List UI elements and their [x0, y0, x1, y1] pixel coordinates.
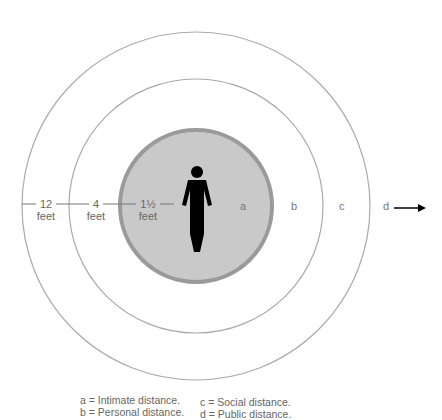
- legend-right: c = Social distance. d = Public distance…: [200, 396, 291, 420]
- zone-label-c: c: [339, 200, 345, 212]
- legend-item-b: b = Personal distance.: [80, 406, 184, 418]
- arrow-right-icon: [394, 204, 426, 212]
- zone-label-d: d: [383, 200, 389, 212]
- distance-label-4ft: 4 feet: [84, 198, 108, 222]
- distance-label-12ft: 12 feet: [34, 198, 58, 222]
- proxemics-diagram: [0, 0, 442, 420]
- zone-label-a: a: [240, 200, 246, 212]
- legend-item-d: d = Public distance.: [200, 408, 291, 420]
- legend-item-c: c = Social distance.: [200, 396, 291, 408]
- legend-item-a: a = Intimate distance.: [80, 394, 184, 406]
- legend-left: a = Intimate distance. b = Personal dist…: [80, 394, 184, 418]
- distance-label-1-5ft: 1½ feet: [135, 198, 161, 222]
- zone-label-b: b: [291, 200, 297, 212]
